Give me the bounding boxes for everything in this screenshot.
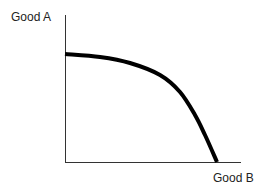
ppf-curve xyxy=(65,54,217,162)
ppf-chart xyxy=(0,0,268,191)
y-axis-label: Good A xyxy=(11,10,51,24)
x-axis-label: Good B xyxy=(213,171,254,185)
